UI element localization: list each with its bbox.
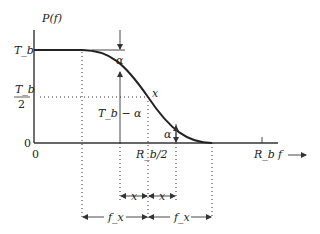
x-tick-rb-half: R_b/2 [135,148,168,161]
y-tick-tb: T_b [14,44,34,57]
y-tick-half-denominator: 2 [18,98,25,111]
x-axis-label: f [277,148,284,161]
x-left-label: x [131,190,138,203]
x-curve-label: x [152,87,159,100]
alpha-top-label: α [116,54,124,67]
y-tick-half-numerator: T_b [15,83,35,96]
x-tick-origin: 0 [32,148,39,161]
x-tick-rb: R_b [253,148,275,161]
x-right-label: x [159,190,166,203]
y-axis-label: P(f) [41,12,62,25]
raised-cosine-spectrum-diagram: P(f) T_b T_b 2 0 0 R_b/2 R_b f α T_b − α… [0,0,320,234]
alpha-bottom-label: α [164,128,172,141]
y-tick-zero: 0 [24,137,31,150]
tb-minus-alpha-label: T_b − α [98,107,142,120]
fx-right-label: f_x [173,211,191,224]
fx-left-label: f_x [107,211,125,224]
